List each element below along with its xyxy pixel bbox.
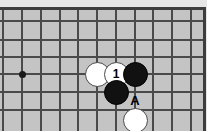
black-stone-lower[interactable] [104,80,129,105]
star-point-left [19,71,26,78]
point-label-a: A [128,94,142,107]
grid-line-vertical-3 [59,10,61,131]
grid-line-horizontal-0 [0,20,203,22]
grid-line-vertical-8 [152,10,154,131]
grid-line-vertical-9 [171,10,173,131]
grid-line-horizontal-4 [0,91,203,93]
grid-line-vertical-2 [40,10,42,131]
grid-line-horizontal-2 [0,56,203,58]
grid-line-vertical-4 [77,10,79,131]
go-diagram: 1A [0,0,214,131]
grid-line-vertical-10 [190,10,192,131]
white-stone-bottom[interactable] [123,108,148,132]
grid-line-horizontal-1 [0,39,203,41]
board-surface[interactable]: 1A [0,10,203,131]
board-edge-right [203,7,206,131]
grid-line-horizontal-5 [0,109,203,111]
grid-line-vertical-0 [2,10,4,131]
black-stone-upper-right[interactable] [123,62,148,87]
